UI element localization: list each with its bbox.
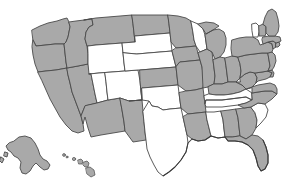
state-FL[interactable] (225, 135, 268, 171)
state-AR[interactable] (179, 88, 206, 114)
state-NM[interactable] (120, 98, 146, 142)
state-HI[interactable] (63, 154, 95, 177)
state-AK[interactable] (0, 136, 50, 174)
state-MO[interactable] (176, 60, 204, 91)
state-VT[interactable] (252, 23, 259, 37)
state-MN[interactable] (168, 15, 196, 48)
state-NJ[interactable] (268, 52, 276, 71)
state-WY[interactable] (88, 43, 125, 74)
state-WA[interactable] (32, 18, 70, 46)
state-CO[interactable] (105, 70, 142, 101)
us-states-map (0, 0, 282, 185)
us-map-container (0, 0, 282, 185)
state-TX[interactable] (143, 101, 188, 176)
